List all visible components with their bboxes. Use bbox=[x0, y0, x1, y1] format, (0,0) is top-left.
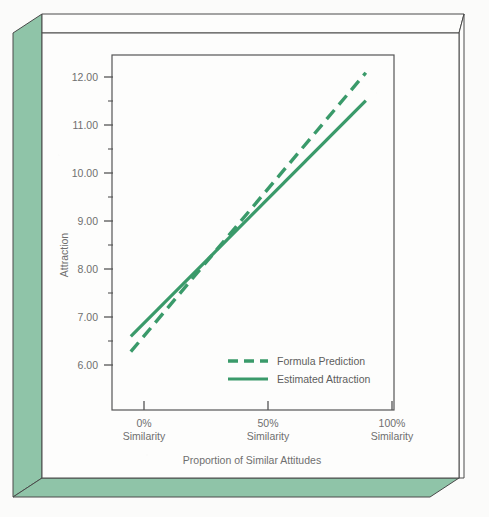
y-tick-label-7: 7.00 bbox=[78, 311, 99, 323]
x-tick-label-100-sub: Similarity bbox=[371, 430, 414, 442]
y-tick-label-12: 12.00 bbox=[72, 71, 98, 83]
x-tick-label-0-pct: 0% bbox=[136, 417, 151, 429]
y-tick-label-6: 6.00 bbox=[78, 359, 99, 371]
chart-figure: 12.00 11.00 10.00 9.00 8.00 7.00 6.00 At… bbox=[0, 0, 489, 517]
x-tick-label-0-sub: Similarity bbox=[123, 430, 166, 442]
x-axis-title: Proportion of Similar Attitudes bbox=[183, 454, 321, 466]
x-tick-label-50-sub: Similarity bbox=[247, 430, 290, 442]
frame-left-panel bbox=[13, 14, 42, 497]
y-tick-label-8: 8.00 bbox=[78, 263, 99, 275]
y-axis-title: Attraction bbox=[58, 233, 70, 278]
legend-label-formula-prediction: Formula Prediction bbox=[277, 355, 365, 367]
y-tick-label-11: 11.00 bbox=[73, 119, 99, 131]
y-tick-label-10: 10.00 bbox=[72, 167, 98, 179]
figure-canvas: 12.00 11.00 10.00 9.00 8.00 7.00 6.00 At… bbox=[0, 0, 489, 517]
legend-label-estimated-attraction: Estimated Attraction bbox=[277, 373, 371, 385]
frame-right-face bbox=[459, 14, 464, 478]
x-tick-label-50-pct: 50% bbox=[257, 417, 278, 429]
x-tick-label-100-pct: 100% bbox=[379, 417, 406, 429]
frame-top-face bbox=[42, 14, 464, 33]
y-tick-label-9: 9.00 bbox=[78, 215, 99, 227]
frame-bottom-panel bbox=[13, 478, 459, 497]
